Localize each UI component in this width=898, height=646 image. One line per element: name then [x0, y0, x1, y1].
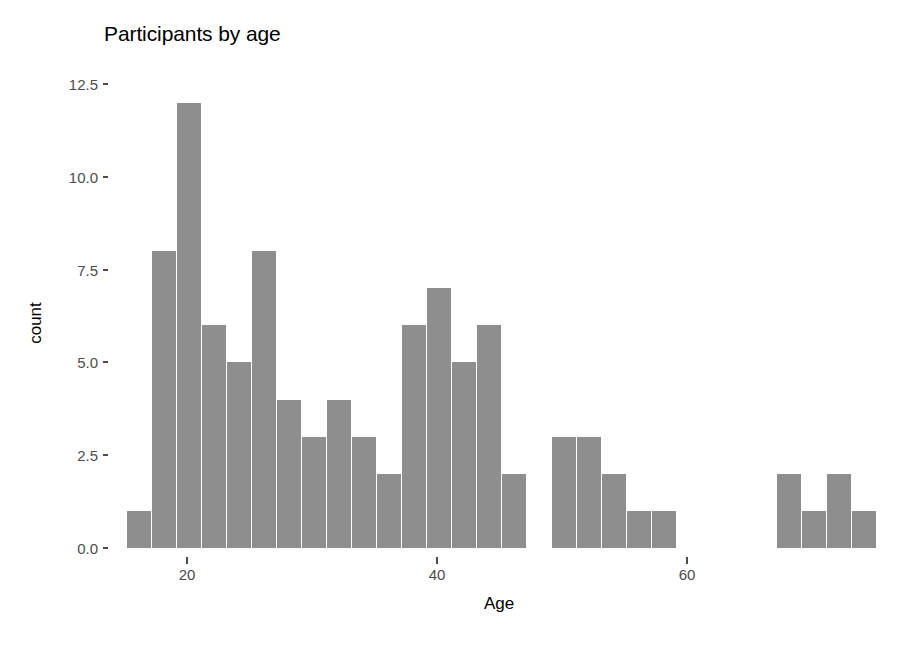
- y-axis-tick-label: 7.5: [77, 261, 98, 278]
- histogram-bar: [227, 362, 251, 548]
- histogram-bar: [627, 511, 651, 548]
- x-axis-tick-label: 20: [179, 566, 196, 583]
- y-axis-tick-label: 12.5: [69, 75, 98, 92]
- y-axis-tick-mark: [103, 176, 108, 178]
- histogram-bar: [477, 325, 501, 548]
- histogram-bar: [277, 400, 301, 548]
- y-axis-tick-mark: [103, 269, 108, 271]
- histogram-bar: [452, 362, 476, 548]
- y-axis-tick-label: 0.0: [77, 540, 98, 557]
- histogram-bar: [602, 474, 626, 548]
- histogram-bar: [177, 103, 201, 548]
- chart-title: Participants by age: [104, 22, 281, 46]
- histogram-bar: [327, 400, 351, 548]
- histogram-bar: [377, 474, 401, 548]
- y-axis-tick-label: 10.0: [69, 168, 98, 185]
- histogram-bar: [252, 251, 276, 548]
- histogram-bar: [552, 437, 576, 548]
- histogram-bar: [127, 511, 151, 548]
- histogram-bar: [202, 325, 226, 548]
- histogram-bar: [802, 511, 826, 548]
- y-axis-tick-mark: [103, 547, 108, 549]
- x-axis-tick-mark: [686, 557, 688, 564]
- y-axis-tick-labels: 0.02.55.07.510.012.5: [0, 0, 98, 646]
- histogram-bar: [577, 437, 601, 548]
- histogram-bar: [652, 511, 676, 548]
- y-axis-tick-mark: [103, 454, 108, 456]
- y-axis-tick-label: 5.0: [77, 354, 98, 371]
- histogram-chart: Participants by age count 0.02.55.07.510…: [0, 0, 898, 646]
- histogram-bar: [852, 511, 876, 548]
- histogram-bar: [152, 251, 176, 548]
- histogram-bar: [427, 288, 451, 548]
- y-axis-tick-mark: [103, 361, 108, 363]
- histogram-bar: [302, 437, 326, 548]
- x-axis-tick-label: 40: [429, 566, 446, 583]
- x-axis-tick-mark: [186, 557, 188, 564]
- histogram-bar: [777, 474, 801, 548]
- x-axis-title: Age: [484, 594, 514, 614]
- y-axis-tick-mark: [103, 83, 108, 85]
- y-axis-tick-label: 2.5: [77, 447, 98, 464]
- histogram-bar: [827, 474, 851, 548]
- histogram-bar: [502, 474, 526, 548]
- plot-area: [112, 58, 887, 548]
- histogram-bar: [352, 437, 376, 548]
- histogram-bar: [402, 325, 426, 548]
- x-axis-tick-mark: [436, 557, 438, 564]
- x-axis-tick-label: 60: [679, 566, 696, 583]
